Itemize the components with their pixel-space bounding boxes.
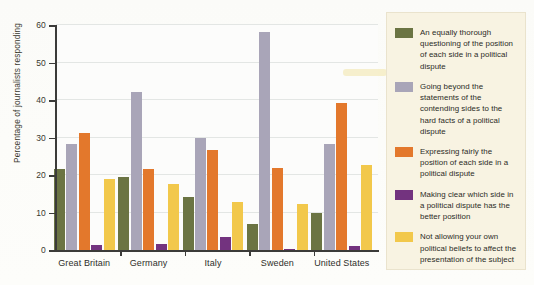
y-axis-line <box>55 25 57 251</box>
bar-group <box>56 25 120 250</box>
bar <box>361 165 372 250</box>
y-axis-tick-label: 10 <box>0 208 46 218</box>
x-axis-line <box>55 250 379 252</box>
bar <box>272 168 283 251</box>
bar-group <box>249 25 313 250</box>
x-axis-group-separator <box>120 250 122 256</box>
legend-swatch-icon <box>395 28 413 38</box>
y-axis-tick <box>49 25 55 27</box>
bar-group <box>120 25 184 250</box>
y-axis-tick-label: 0 <box>0 245 46 255</box>
legend-item[interactable]: Going beyond the statements of the conte… <box>395 81 517 137</box>
legend-swatch-icon <box>395 147 413 157</box>
y-axis-tick-label: 20 <box>0 170 46 180</box>
y-axis-tick-label: 30 <box>0 133 46 143</box>
y-axis-tick <box>49 213 55 215</box>
bar-group <box>314 25 378 250</box>
bar <box>232 202 243 250</box>
x-axis-category-label: Sweden <box>261 258 294 268</box>
bar <box>297 204 308 250</box>
x-axis-category-label: Italy <box>204 258 221 268</box>
x-axis-category-label: Germany <box>130 258 168 268</box>
x-axis-group-separator <box>314 250 316 256</box>
legend-item-label: Making clear which side in a political d… <box>420 189 517 223</box>
bar <box>118 177 129 251</box>
bar <box>311 213 322 250</box>
x-axis-category-label: United States <box>314 258 369 268</box>
bar-chart-figure: 0102030405060 Percentage of journalists … <box>0 0 534 285</box>
legend-swatch-icon <box>395 232 413 242</box>
legend-item-label: Not allowing your own political beliefs … <box>420 231 517 265</box>
x-axis-category-label: Great Britain <box>58 258 110 268</box>
legend-swatch-icon <box>395 190 413 200</box>
bar <box>143 169 154 250</box>
y-axis-tick-label: 40 <box>0 95 46 105</box>
x-axis-group-separator <box>249 250 251 256</box>
legend-item-label: Expressing fairly the position of each s… <box>420 146 517 180</box>
bar-group <box>185 25 249 250</box>
bar <box>336 103 347 250</box>
bar <box>104 179 115 250</box>
legend-item[interactable]: Not allowing your own political beliefs … <box>395 231 517 265</box>
bar <box>220 237 231 251</box>
y-axis-title: Percentage of journalists responding <box>12 0 22 188</box>
y-axis-tick <box>49 100 55 102</box>
legend-item-label: An equally thorough questioning of the p… <box>420 27 517 72</box>
bar <box>168 184 179 250</box>
bar <box>183 197 194 250</box>
bar <box>259 32 270 250</box>
y-axis-tick <box>49 63 55 65</box>
y-axis-tick <box>49 250 55 252</box>
bar <box>247 224 258 250</box>
y-axis-tick <box>49 138 55 140</box>
bar <box>131 92 142 250</box>
bar <box>207 150 218 251</box>
legend-item[interactable]: An equally thorough questioning of the p… <box>395 27 517 72</box>
bar <box>66 144 77 250</box>
legend-item[interactable]: Making clear which side in a political d… <box>395 189 517 223</box>
legend-item-label: Going beyond the statements of the conte… <box>420 81 517 137</box>
bar <box>79 133 90 250</box>
scan-artifact <box>343 69 387 76</box>
chart-legend: An equally thorough questioning of the p… <box>386 12 526 270</box>
y-axis-tick-label: 50 <box>0 58 46 68</box>
y-axis-tick <box>49 175 55 177</box>
legend-item[interactable]: Expressing fairly the position of each s… <box>395 146 517 180</box>
legend-swatch-icon <box>395 82 413 92</box>
y-axis-tick-label: 60 <box>0 20 46 30</box>
plot-area <box>56 25 378 250</box>
bar <box>195 138 206 251</box>
x-axis-group-separator <box>185 250 187 256</box>
bar <box>324 144 335 250</box>
